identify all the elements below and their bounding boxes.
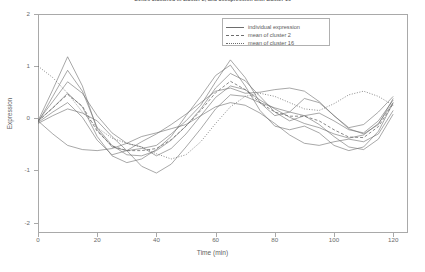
x-tick-label: 60 [206, 236, 226, 243]
chart-figure: Genes clustered in cluster 2, and coexpr… [0, 0, 425, 272]
x-tick-label: 20 [87, 236, 107, 243]
series-line [38, 70, 393, 156]
plot-canvas [38, 14, 408, 233]
x-tick-label: 0 [28, 236, 48, 243]
y-tick-mark [34, 118, 38, 119]
x-tick-label: 40 [146, 236, 166, 243]
x-tick-label: 120 [383, 236, 403, 243]
series-line [38, 103, 393, 151]
legend-line-sample-icon [226, 27, 244, 28]
y-tick-label: 2 [16, 10, 30, 17]
x-tick-label: 100 [324, 236, 344, 243]
legend-line-sample-icon [226, 43, 244, 44]
legend-line-sample-icon [226, 35, 244, 36]
y-tick-label: -2 [16, 219, 30, 226]
legend-label: mean of cluster 16 [248, 39, 294, 47]
y-axis-label: Expression [6, 84, 13, 144]
y-tick-mark [34, 170, 38, 171]
y-tick-mark [34, 14, 38, 15]
series-line [38, 57, 393, 151]
y-tick-label: -1 [16, 166, 30, 173]
chart-title: Genes clustered in cluster 2, and coexpr… [0, 0, 425, 3]
y-tick-label: 1 [16, 62, 30, 69]
x-tick-label: 80 [265, 236, 285, 243]
chart-legend: individual expressionmean of cluster 2me… [222, 18, 330, 46]
series-line [38, 81, 393, 150]
x-axis-label: Time (min) [0, 249, 425, 256]
y-tick-label: 0 [16, 114, 30, 121]
y-tick-mark [34, 223, 38, 224]
y-tick-mark [34, 66, 38, 67]
legend-label: mean of cluster 2 [248, 31, 291, 39]
legend-label: individual expression [248, 23, 300, 31]
